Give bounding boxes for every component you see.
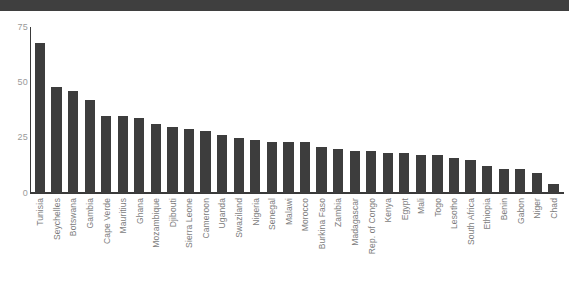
x-axis-label: Malawi — [284, 198, 293, 225]
bar-slot — [430, 27, 447, 193]
bar[interactable] — [118, 116, 128, 193]
x-axis-label: Mauritius — [119, 198, 128, 233]
x-axis-label: Madagascar — [350, 198, 359, 246]
x-label-slot: Egypt — [396, 196, 413, 283]
x-axis-label: Benin — [500, 198, 509, 220]
bar[interactable] — [399, 153, 409, 193]
bar-slot — [545, 27, 562, 193]
bar[interactable] — [101, 116, 111, 193]
x-label-slot: South Africa — [463, 196, 480, 283]
x-label-slot: Kenya — [380, 196, 397, 283]
x-label-slot: Chad — [545, 196, 562, 283]
x-label-slot: Gambia — [82, 196, 99, 283]
x-axis-label: Swaziland — [235, 198, 244, 238]
bar[interactable] — [432, 155, 442, 193]
x-axis-label: Togo — [433, 198, 442, 217]
bar-slot — [396, 27, 413, 193]
bar-slot — [280, 27, 297, 193]
x-axis-label: Lesotho — [450, 198, 459, 229]
bar[interactable] — [532, 173, 542, 193]
bar-slot — [314, 27, 331, 193]
bar[interactable] — [499, 169, 509, 193]
x-axis-label: Chad — [549, 198, 558, 219]
bar[interactable] — [548, 184, 558, 193]
x-axis-label: Burkina Faso — [317, 198, 326, 249]
bar-slot — [181, 27, 198, 193]
x-label-slot: Mauritius — [115, 196, 132, 283]
bar[interactable] — [465, 160, 475, 193]
bar[interactable] — [333, 149, 343, 193]
x-label-slot: Seychelles — [49, 196, 66, 283]
bar-slot — [32, 27, 49, 193]
bar[interactable] — [85, 100, 95, 193]
bar[interactable] — [151, 124, 161, 193]
y-tick-label: 75 — [2, 23, 28, 32]
bar-slot — [82, 27, 99, 193]
bar-slot — [264, 27, 281, 193]
bar-slot — [214, 27, 231, 193]
x-axis-label: Gabon — [516, 198, 525, 224]
bar-slot — [463, 27, 480, 193]
bar[interactable] — [482, 166, 492, 193]
x-axis-category-labels: TunisiaSeychellesBotswanaGambiaCape Verd… — [32, 196, 562, 283]
bar-slot — [330, 27, 347, 193]
bar-slot — [49, 27, 66, 193]
bar[interactable] — [283, 142, 293, 193]
bar[interactable] — [449, 158, 459, 193]
bar-slot — [413, 27, 430, 193]
x-axis-label: Cape Verde — [102, 198, 111, 244]
y-tick-label: 0 — [2, 189, 28, 198]
x-label-slot: Senegal — [264, 196, 281, 283]
x-label-slot: Djibouti — [165, 196, 182, 283]
bar-slot — [380, 27, 397, 193]
bar[interactable] — [134, 118, 144, 193]
bar-slot — [512, 27, 529, 193]
x-axis-label: Ghana — [135, 198, 144, 224]
bar[interactable] — [51, 87, 61, 193]
x-label-slot: Tunisia — [32, 196, 49, 283]
x-axis-label: Niger — [533, 198, 542, 219]
x-label-slot: Morocco — [297, 196, 314, 283]
x-label-slot: Ethiopia — [479, 196, 496, 283]
x-axis-label: Botswana — [69, 198, 78, 236]
bar[interactable] — [250, 140, 260, 193]
bar[interactable] — [184, 129, 194, 193]
bar-slot — [496, 27, 513, 193]
bar-slot — [231, 27, 248, 193]
bar-slot — [446, 27, 463, 193]
x-axis-label: Egypt — [400, 198, 409, 220]
x-label-slot: Lesotho — [446, 196, 463, 283]
bar-slot — [297, 27, 314, 193]
bar[interactable] — [383, 153, 393, 193]
top-decorative-band — [0, 0, 569, 11]
bar[interactable] — [416, 155, 426, 193]
bar[interactable] — [267, 142, 277, 193]
bar[interactable] — [350, 151, 360, 193]
x-label-slot: Uganda — [214, 196, 231, 283]
x-label-slot: Benin — [496, 196, 513, 283]
bar[interactable] — [234, 138, 244, 193]
x-axis-label: South Africa — [466, 198, 475, 245]
bar[interactable] — [515, 169, 525, 193]
bar-slot — [198, 27, 215, 193]
x-label-slot: Mali — [413, 196, 430, 283]
x-axis-label: Ethiopia — [483, 198, 492, 230]
bar[interactable] — [200, 131, 210, 193]
bar-slot — [247, 27, 264, 193]
x-label-slot: Burkina Faso — [314, 196, 331, 283]
bar[interactable] — [167, 127, 177, 193]
bar[interactable] — [35, 43, 45, 194]
bar[interactable] — [68, 91, 78, 193]
x-label-slot: Togo — [430, 196, 447, 283]
y-tick-label: 50 — [2, 78, 28, 87]
y-axis-tick-labels: 0255075 — [0, 11, 28, 201]
bar[interactable] — [300, 142, 310, 193]
bar[interactable] — [366, 151, 376, 193]
x-axis-label: Tunisia — [36, 198, 45, 226]
bar[interactable] — [316, 147, 326, 193]
x-label-slot: Malawi — [280, 196, 297, 283]
bar[interactable] — [217, 135, 227, 193]
x-label-slot: Sierra Leone — [181, 196, 198, 283]
chart-page: 0255075 TunisiaSeychellesBotswanaGambiaC… — [0, 0, 569, 283]
x-axis-label: Cameroon — [201, 198, 210, 239]
